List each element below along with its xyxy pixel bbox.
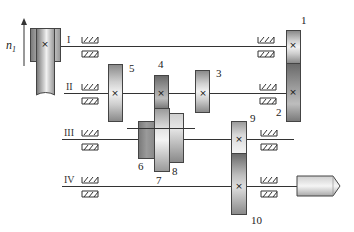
gear-3-fixed-marker: ×: [198, 89, 208, 98]
bearing-icon: [81, 36, 99, 58]
bearing-icon: [259, 83, 277, 105]
transmission-diagram: n1 × I II III IV: [0, 0, 354, 232]
shaft-label-I: I: [67, 35, 70, 45]
gear-7: [154, 108, 170, 172]
shaft-label-III: III: [64, 128, 74, 138]
gear-5-fixed-marker: ×: [110, 89, 120, 98]
pulley-fixed-marker: ×: [40, 40, 50, 49]
gear-6-label: 6: [138, 161, 144, 172]
bearing-icon: [257, 36, 275, 58]
bearing-icon: [81, 83, 99, 105]
input-speed-arrow-icon: [21, 18, 27, 68]
pulley-bottom-curve: [36, 90, 55, 96]
input-speed-label: n1: [6, 39, 16, 56]
gear-8: [169, 113, 184, 163]
gear-4-fixed-marker: ×: [156, 89, 166, 98]
gear-9-fixed-marker: ×: [234, 135, 244, 144]
gear-5-label: 5: [129, 63, 135, 74]
bearing-icon: [260, 176, 278, 198]
gear-10-label: 10: [251, 215, 262, 226]
gear-4-label: 4: [158, 59, 164, 70]
gear-1-label: 1: [301, 15, 307, 26]
output-shaft-tip-icon: [296, 175, 342, 199]
gear-6: [138, 121, 155, 159]
gear-2-label: 2: [276, 107, 282, 118]
gear-7-label: 7: [156, 175, 162, 186]
shaft-label-IV: IV: [64, 175, 75, 185]
bearing-icon: [260, 129, 278, 151]
shaft-III-splined-overlay: [127, 128, 195, 129]
gear-2-fixed-marker: ×: [288, 88, 298, 97]
gear-8-label: 8: [172, 166, 178, 177]
gear-1-fixed-marker: ×: [288, 41, 298, 50]
bearing-icon: [81, 129, 99, 151]
gear-9-label: 9: [250, 113, 256, 124]
shaft-label-II: II: [66, 82, 73, 92]
bearing-icon: [81, 176, 99, 198]
gear-3-label: 3: [216, 68, 222, 79]
gear-10-fixed-marker: ×: [234, 182, 244, 191]
